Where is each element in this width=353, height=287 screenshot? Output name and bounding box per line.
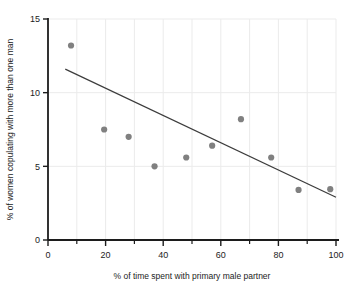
x-tick-label: 60 [216, 250, 226, 260]
scatter-chart: 051015020406080100% of time spent with p… [0, 0, 353, 287]
x-tick-label: 0 [45, 250, 50, 260]
data-point [126, 134, 132, 140]
x-axis-title: % of time spent with primary male partne… [114, 271, 271, 281]
y-tick-label: 5 [35, 162, 40, 172]
data-point [238, 116, 244, 122]
data-point [268, 154, 274, 160]
x-tick-label: 80 [273, 250, 283, 260]
data-point [295, 187, 301, 193]
data-point [151, 163, 157, 169]
data-point [327, 186, 333, 192]
data-point [209, 143, 215, 149]
data-point [68, 42, 74, 48]
x-tick-label: 20 [101, 250, 111, 260]
y-tick-label: 15 [30, 14, 40, 24]
y-axis-title: % of women copulating with more than one… [5, 39, 15, 221]
x-tick-label: 100 [328, 250, 343, 260]
y-tick-label: 10 [30, 88, 40, 98]
data-point [183, 154, 189, 160]
data-point [101, 126, 107, 132]
y-tick-label: 0 [35, 235, 40, 245]
x-tick-label: 40 [158, 250, 168, 260]
plot-area: 051015020406080100% of time spent with p… [0, 0, 353, 287]
